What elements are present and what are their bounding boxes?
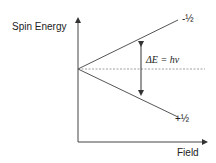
y-axis-label: Spin Energy [12,21,66,32]
lower-spin-level [78,69,178,117]
upper-level-label: -½ [182,13,194,24]
x-axis-label: Field [177,147,199,158]
lower-level-label: +½ [175,113,190,124]
transition-label: ΔE = hν [145,54,180,65]
zeeman-splitting-diagram: Spin Energy Field -½ +½ ΔE = hν [0,0,216,163]
